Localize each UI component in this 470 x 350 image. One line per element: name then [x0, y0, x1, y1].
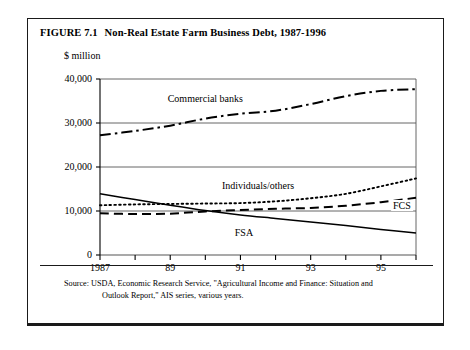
source-line-2: Outlook Report," AIS series, various yea… — [64, 290, 424, 302]
source-line-1: USDA, Economic Research Service, "Agricu… — [91, 279, 373, 288]
series-line — [100, 198, 416, 214]
y-axis-tick-label: 30,000 — [36, 118, 92, 128]
y-axis-tick-label: 20,000 — [36, 162, 92, 172]
source-separator-rule — [40, 265, 433, 266]
series-line — [100, 89, 416, 135]
y-axis-tick-label: 10,000 — [36, 206, 92, 216]
series-label: FSA — [235, 227, 253, 238]
source-label: Source: — [64, 279, 89, 288]
figure-container: FIGURE 7.1Non-Real Estate Farm Business … — [27, 18, 444, 326]
y-axis-tick-label: 40,000 — [36, 74, 92, 84]
series-label: FCS — [391, 200, 413, 211]
y-axis-tick-label: 0 — [36, 250, 92, 260]
series-label: Commercial banks — [168, 93, 243, 104]
series-label: Individuals/others — [222, 180, 294, 191]
source-note: Source: USDA, Economic Research Service,… — [64, 278, 424, 302]
